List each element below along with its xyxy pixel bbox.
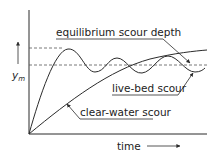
equilibrium-leader: [56, 39, 190, 63]
y-axis-label: ym: [11, 69, 25, 83]
scour-diagram: equilibrium scour depth live-bed scour c…: [0, 0, 219, 154]
y-axis-label-sub: m: [18, 75, 25, 83]
live-bed-label: live-bed scour: [112, 82, 187, 94]
equilibrium-label: equilibrium scour depth: [56, 26, 181, 38]
x-axis-label: time: [117, 140, 141, 152]
clear-water-label: clear-water scour: [80, 106, 172, 118]
